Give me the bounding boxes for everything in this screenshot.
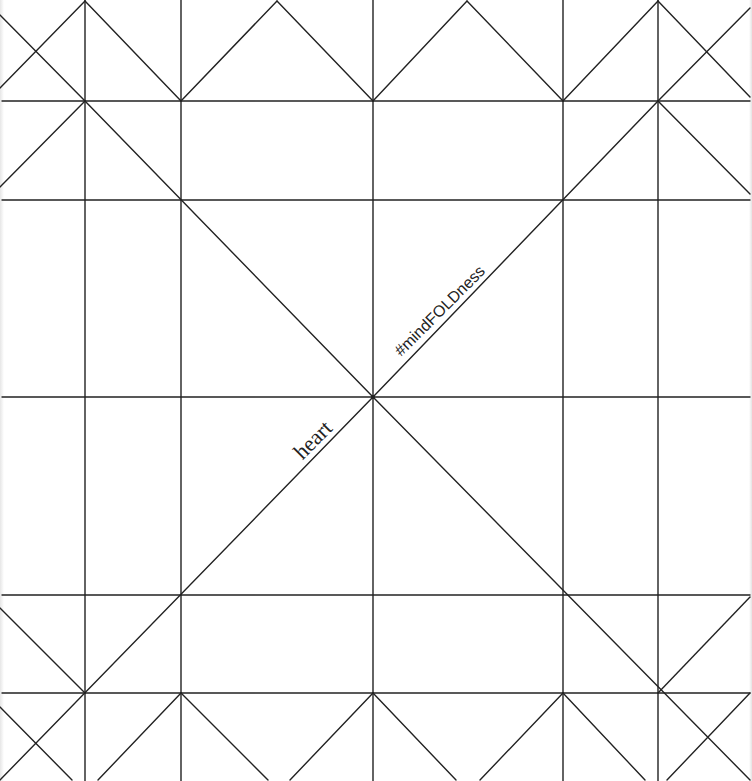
diagonal-crease [658, 8, 750, 101]
diagonal-crease [290, 693, 373, 780]
diagonal-crease [373, 101, 658, 397]
diagonal-crease [373, 1, 467, 101]
diagonal-crease [98, 693, 181, 780]
diagonal-crease [373, 397, 750, 780]
diagonal-crease [658, 101, 750, 194]
diagonal-crease [85, 101, 373, 397]
diagonal-crease [0, 608, 85, 693]
diagonal-crease [0, 101, 85, 187]
diagonal-crease [480, 693, 563, 780]
diagonal-crease [467, 1, 563, 101]
diagonal-crease [0, 15, 85, 101]
diagonal-crease [563, 1, 658, 101]
diagonal-crease [181, 1, 277, 101]
diagonal-crease [563, 693, 645, 780]
diagonal-crease [373, 693, 456, 780]
diagonal-crease [658, 1, 750, 97]
diagonal-crease [85, 1, 181, 101]
diagonal-crease [658, 597, 750, 693]
crease-lines [0, 0, 752, 781]
center-point [371, 395, 375, 399]
diagonal-crease [0, 397, 373, 780]
crease-pattern-paper: heart #mindFOLDness [0, 0, 752, 781]
diagonal-crease [277, 1, 373, 101]
diagonal-crease [181, 693, 268, 780]
diagonal-crease [0, 1, 85, 88]
